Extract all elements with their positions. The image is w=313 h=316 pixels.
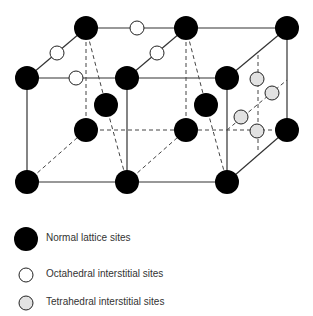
octahedral-sites — [50, 21, 164, 85]
legend-label-tetrahedral: Tetrahedral interstitial sites — [46, 296, 164, 307]
legend-label-octahedral: Octahedral interstitial sites — [46, 268, 163, 279]
legend-normal-icon — [14, 227, 38, 251]
legend-tetrahedral-icon — [19, 296, 33, 310]
legend-octahedral-icon — [19, 268, 33, 282]
legend-label-normal: Normal lattice sites — [46, 232, 130, 243]
